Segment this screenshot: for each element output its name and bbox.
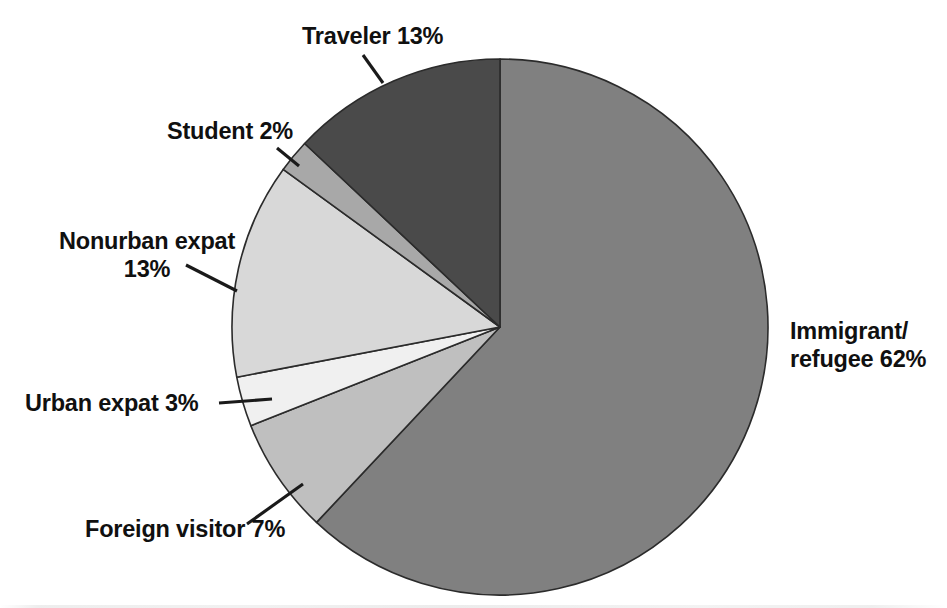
pie-label-traveler: Traveler 13% xyxy=(302,23,444,49)
leader-line-traveler xyxy=(363,55,383,83)
pie-slices-group xyxy=(232,59,768,595)
pie-chart-canvas: Immigrant/refugee 62%Foreign visitor 7%U… xyxy=(0,0,947,608)
pie-label-nonurban-expat: Nonurban expat13% xyxy=(59,228,235,282)
pie-label-immigrant-refugee: Immigrant/refugee 62% xyxy=(790,318,927,372)
pie-label-urban-expat: Urban expat 3% xyxy=(25,390,199,416)
pie-chart-figure: Immigrant/refugee 62%Foreign visitor 7%U… xyxy=(0,0,947,608)
leader-line-nonurban-expat xyxy=(186,265,237,291)
pie-label-student: Student 2% xyxy=(167,118,293,144)
pie-label-foreign-visitor: Foreign visitor 7% xyxy=(85,516,285,542)
